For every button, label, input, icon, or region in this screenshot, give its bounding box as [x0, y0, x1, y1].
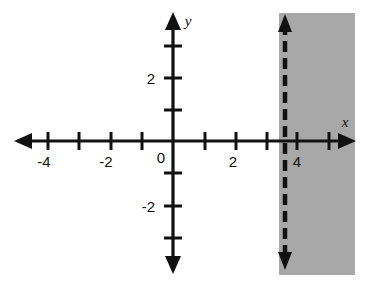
y-axis-up-arrowhead — [165, 12, 181, 30]
y-tick-label-pos2: 2 — [147, 70, 155, 87]
y-axis-label: y — [183, 13, 192, 29]
x-tick-label-pos2: 2 — [229, 153, 237, 170]
x-tick-label-origin: 0 — [157, 149, 165, 166]
x-tick-label-pos4: 4 — [293, 153, 301, 170]
x-axis-left-arrowhead — [14, 133, 32, 149]
x-tick-label-neg2: -2 — [99, 153, 112, 170]
graph-canvas: -4 -2 0 2 4 2 -2 x y — [0, 0, 369, 288]
x-tick-label-neg4: -4 — [37, 153, 50, 170]
coordinate-plane-figure: -4 -2 0 2 4 2 -2 x y — [0, 0, 369, 288]
y-axis-down-arrowhead — [165, 256, 181, 274]
y-tick-label-neg2: -2 — [142, 198, 155, 215]
x-axis-label: x — [341, 114, 349, 130]
